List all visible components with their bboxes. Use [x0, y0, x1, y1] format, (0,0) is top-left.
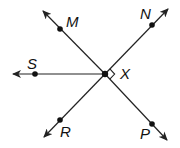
point-R	[57, 117, 63, 123]
point-P	[149, 121, 155, 127]
ray-XP	[105, 74, 167, 140]
label-P: P	[140, 125, 150, 142]
ray-XN	[105, 9, 168, 74]
label-N: N	[140, 5, 151, 22]
right-angle-icon	[110, 69, 115, 79]
point-X	[102, 71, 108, 77]
rays-figure: M N S R P X	[0, 0, 180, 148]
point-M	[57, 26, 63, 32]
point-S	[32, 71, 38, 77]
label-S: S	[27, 55, 37, 72]
ray-XR	[44, 74, 105, 137]
point-N	[149, 22, 155, 28]
label-X: X	[119, 65, 131, 82]
right-angle-marker	[110, 69, 115, 79]
geometry-diagram: M N S R P X	[0, 0, 180, 148]
label-M: M	[66, 13, 79, 30]
label-R: R	[60, 123, 71, 140]
